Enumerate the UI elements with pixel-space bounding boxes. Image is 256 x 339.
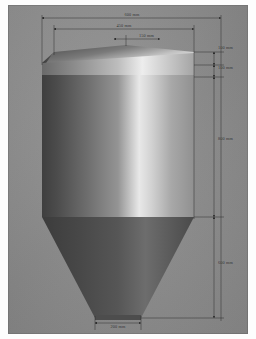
vessel-cone xyxy=(42,217,194,318)
vessel-cylinder xyxy=(42,75,194,217)
dim-label-overall-width: 600 mm xyxy=(124,13,139,17)
dim-label-top-offset: 150 mm xyxy=(139,34,154,38)
dim-label-cone-height: 600 mm xyxy=(218,261,233,265)
dim-label-lid-upper: 100 mm xyxy=(218,46,233,50)
dim-label-top-plate-width: 450 mm xyxy=(116,24,131,28)
drawing-canvas: 600 mm 450 mm 150 mm 100 mm 100 mm 800 m… xyxy=(0,0,256,339)
dim-label-lid-lower: 100 mm xyxy=(218,66,233,70)
dim-label-outlet-width: 200 mm xyxy=(110,325,125,329)
vessel-outlet xyxy=(95,315,141,320)
dim-label-body-height: 800 mm xyxy=(218,137,233,141)
drawing-panel: 600 mm 450 mm 150 mm 100 mm 100 mm 800 m… xyxy=(8,5,248,334)
vessel-drawing xyxy=(8,5,248,334)
vessel-solid xyxy=(42,45,194,320)
